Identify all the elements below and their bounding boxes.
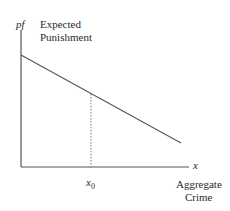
x0-tick-label: x0 — [86, 176, 95, 193]
expected-punishment-line — [21, 55, 181, 143]
y-axis-title-line2: Punishment — [40, 31, 92, 44]
y-axis-symbol: pf — [16, 18, 25, 31]
x-axis-title-line1: Aggregate — [176, 178, 222, 191]
x-axis-title-line2: Crime — [185, 191, 213, 204]
y-axis-title-line1: Expected — [40, 18, 81, 31]
x-axis-symbol: x — [193, 159, 198, 172]
x0-subscript: 0 — [91, 182, 95, 191]
